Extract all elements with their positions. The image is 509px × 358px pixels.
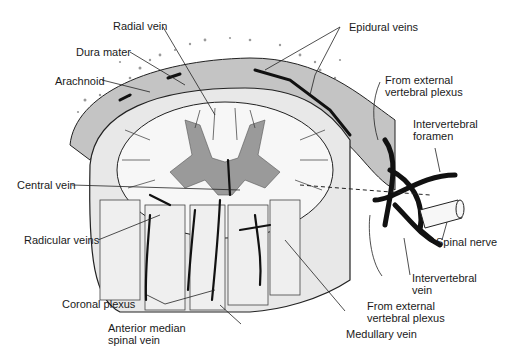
label-from-external-top-1: From external — [385, 74, 453, 86]
label-coronal-plexus: Coronal plexus — [62, 298, 135, 310]
label-from-external-top-2: vertebral plexus — [385, 86, 463, 98]
label-epidural-veins: Epidural veins — [349, 21, 418, 33]
label-anterior-median-1: Anterior median — [108, 322, 186, 334]
label-intervertebral-foramen-2: foramen — [413, 130, 453, 142]
label-arachnoid: Arachnoid — [55, 75, 105, 87]
label-intervertebral-vein-2: vein — [412, 284, 432, 296]
spinal-nerve — [420, 200, 462, 228]
label-intervertebral-vein-1: Intervertebral — [412, 272, 477, 284]
label-radicular-veins: Radicular veins — [24, 234, 99, 246]
label-radial-vein: Radial vein — [113, 20, 167, 32]
label-central-vein: Central vein — [17, 179, 76, 191]
label-anterior-median-2: spinal vein — [108, 334, 160, 346]
cord-columns — [100, 200, 300, 310]
label-from-external-bottom-1: From external — [367, 300, 435, 312]
label-intervertebral-foramen-1: Intervertebral — [413, 118, 478, 130]
spinal-venous-diagram: Radial vein Dura mater Arachnoid Epidura… — [0, 0, 509, 358]
label-from-external-bottom-2: vertebral plexus — [367, 312, 445, 324]
label-medullary-vein: Medullary vein — [346, 328, 417, 340]
label-dura-mater: Dura mater — [76, 46, 131, 58]
label-spinal-nerve: Spinal nerve — [436, 236, 497, 248]
